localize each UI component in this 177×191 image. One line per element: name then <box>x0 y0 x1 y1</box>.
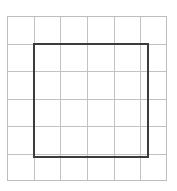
canvas-background <box>0 0 177 191</box>
figure-canvas <box>0 0 177 191</box>
grid-figure <box>0 0 177 191</box>
